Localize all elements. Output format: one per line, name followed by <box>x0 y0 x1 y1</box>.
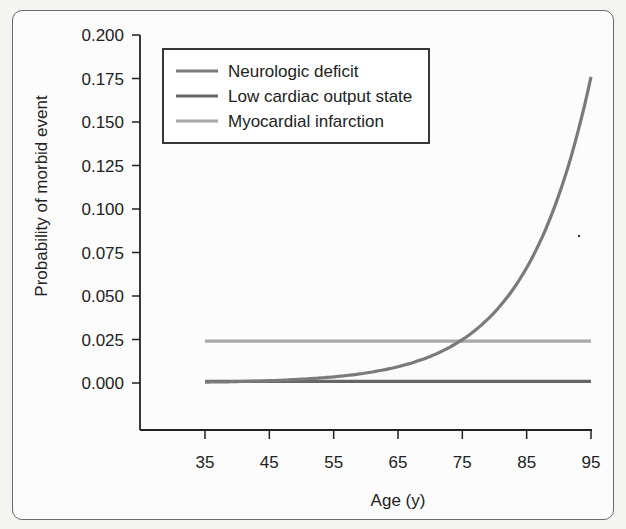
legend-label: Low cardiac output state <box>228 87 412 106</box>
y-tick-label: 0.150 <box>81 113 124 132</box>
legend: Neurologic deficitLow cardiac output sta… <box>163 49 429 143</box>
x-tick-label: 95 <box>582 453 601 472</box>
y-tick-label: 0.100 <box>81 200 124 219</box>
x-tick-label: 45 <box>260 453 279 472</box>
y-tick-label: 0.050 <box>81 287 124 306</box>
x-tick-label: 65 <box>389 453 408 472</box>
legend-label: Myocardial infarction <box>228 112 384 131</box>
x-tick-label: 75 <box>453 453 472 472</box>
y-tick-label: 0.075 <box>81 244 124 263</box>
line-chart: 0.0000.0250.0500.0750.1000.1250.1500.175… <box>0 0 626 529</box>
y-tick-label: 0.025 <box>81 331 124 350</box>
speck <box>578 235 580 237</box>
y-tick-label: 0.125 <box>81 157 124 176</box>
y-tick-label: 0.200 <box>81 26 124 45</box>
y-tick-label: 0.000 <box>81 374 124 393</box>
x-tick-label: 55 <box>324 453 343 472</box>
x-tick-label: 85 <box>517 453 536 472</box>
x-axis-title: Age (y) <box>371 491 426 510</box>
legend-label: Neurologic deficit <box>228 62 359 81</box>
y-tick-label: 0.175 <box>81 70 124 89</box>
x-tick-label: 35 <box>196 453 215 472</box>
y-axis-title: Probability of morbid event <box>32 95 51 297</box>
